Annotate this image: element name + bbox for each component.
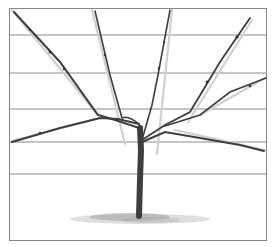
tree-illustration xyxy=(0,0,274,247)
fan-trained-tree-drawing xyxy=(0,0,274,247)
trunk xyxy=(139,128,141,216)
